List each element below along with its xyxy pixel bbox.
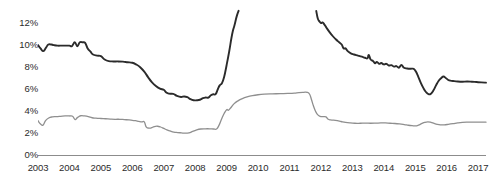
- x-axis-tick-label: 2015: [400, 162, 430, 173]
- line-chart: 12%10%8%6%4%2%0% 20032004200520062007200…: [0, 0, 489, 182]
- x-axis-tick-label: 2014: [369, 162, 399, 173]
- x-axis-tick-label: 2008: [180, 162, 210, 173]
- x-axis-tick-label: 2009: [212, 162, 242, 173]
- x-axis-tick-labels: 2003200420052006200720082009201020112012…: [0, 0, 489, 182]
- x-axis-tick-label: 2010: [243, 162, 273, 173]
- x-axis-tick-label: 2011: [275, 162, 305, 173]
- x-axis-tick-label: 2017: [463, 162, 489, 173]
- x-axis-tick-label: 2006: [117, 162, 147, 173]
- x-axis-tick-label: 2003: [23, 162, 53, 173]
- x-axis-tick-label: 2012: [306, 162, 336, 173]
- x-axis-tick-label: 2004: [54, 162, 84, 173]
- x-axis-tick-label: 2016: [432, 162, 462, 173]
- x-axis-tick-label: 2005: [86, 162, 116, 173]
- x-axis-tick-label: 2013: [337, 162, 367, 173]
- x-axis-tick-label: 2007: [149, 162, 179, 173]
